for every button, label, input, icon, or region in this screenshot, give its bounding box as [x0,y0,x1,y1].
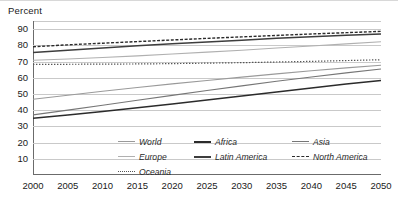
legend-label: Oceania [139,167,171,177]
legend-swatch-icon [292,141,309,142]
series-line-oceania [33,60,381,65]
y-axis-tick-label: 60 [17,73,28,83]
x-axis-tick-label: 2045 [336,181,357,191]
top-divider [0,0,398,1]
legend-item-latin-america[interactable]: Latin America [194,152,292,162]
y-axis-tick-label: 30 [17,122,28,132]
legend-swatch-icon [118,141,135,142]
series-line-africa [33,80,381,118]
legend-item-world[interactable]: World [118,137,194,147]
y-axis-tick-label: 40 [17,105,28,115]
legend-label: Europe [139,152,167,162]
y-axis-tick-label: 50 [17,89,28,99]
legend-swatch-icon [194,141,211,143]
legend-item-europe[interactable]: Europe [118,152,194,162]
x-axis-tick-label: 2030 [231,181,252,191]
x-axis-tick-label: 2050 [370,181,391,191]
series-line-world [33,65,381,99]
legend-label: World [139,137,161,147]
x-axis-tick-label: 2010 [92,181,113,191]
y-axis-tick-label: 20 [17,138,28,148]
series-line-asia [33,69,381,115]
x-axis-tick-label: 2035 [266,181,287,191]
legend-swatch-icon [292,156,309,157]
x-axis-tick-label: 2005 [57,181,78,191]
legend-item-africa[interactable]: Africa [194,137,292,147]
x-axis-tick-label: 2025 [196,181,217,191]
x-axis-tick-label: 2040 [301,181,322,191]
series-line-latin-america [33,34,381,53]
x-axis-tick-label: 2015 [127,181,148,191]
y-axis-tick-label: 90 [17,24,28,34]
x-axis-tick-label: 2000 [22,181,43,191]
y-axis-tick-label: 80 [17,41,28,51]
legend-swatch-icon [194,156,211,158]
y-axis-title: Percent [8,5,42,16]
y-axis-tick-label: 70 [17,57,28,67]
legend-swatch-icon [118,171,135,172]
chart-legend: WorldAfricaAsiaEuropeLatin AmericaNorth … [118,134,386,179]
legend-label: Asia [313,137,330,147]
legend-item-oceania[interactable]: Oceania [118,167,194,177]
legend-item-asia[interactable]: Asia [292,137,386,147]
x-axis-tick-label: 2020 [162,181,183,191]
legend-label: North America [313,152,368,162]
legend-swatch-icon [118,156,135,157]
legend-label: Africa [215,137,237,147]
y-axis-tick-label: 10 [17,154,28,164]
legend-label: Latin America [215,152,267,162]
legend-item-north-america[interactable]: North America [292,152,386,162]
